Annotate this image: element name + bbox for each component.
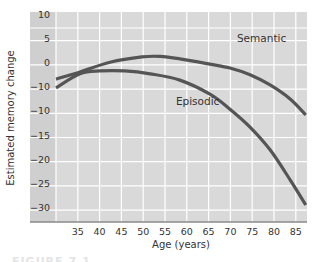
x-tick-label: 35 [72,226,84,237]
x-tick-label: 85 [290,226,302,237]
y-tick-label: −10 [30,105,50,116]
x-tick-label: 55 [159,226,171,237]
y-tick-label: −25 [30,178,50,189]
x-tick-label: 75 [246,226,258,237]
x-tick-label: 45 [115,226,127,237]
x-tick-labels: 3540455055606570758085 [72,226,302,237]
series-label-episodic: Episodic [176,95,220,107]
y-tick-label: −10 [30,81,50,92]
y-tick-label: −15 [30,130,50,141]
x-tick-label: 40 [94,226,106,237]
x-tick-label: 80 [268,226,280,237]
memory-change-chart: 1050−10−10−15−20−25−30 35404550556065707… [0,0,317,262]
x-tick-label: 70 [224,226,236,237]
x-axis-title: Age (years) [152,239,210,250]
figure-caption-fragment: FIGURE 7.1 [12,255,91,262]
x-tick-label: 50 [137,226,149,237]
y-axis-title: Estimated memory change [5,50,16,185]
x-tick-label: 60 [181,226,193,237]
series-label-semantic: Semantic [237,32,286,44]
y-tick-label: 0 [44,57,50,68]
x-tick-label: 65 [203,226,215,237]
y-tick-label: 10 [38,9,50,20]
y-tick-label: 5 [44,33,50,44]
y-tick-label: −20 [30,154,50,165]
y-tick-label: −30 [30,202,50,213]
